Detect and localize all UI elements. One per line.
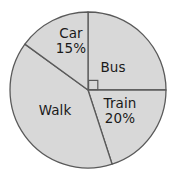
pie-chart-figure: Car 15% Bus Train 20% Walk [0,0,179,182]
pie-chart-graphic [0,0,179,182]
pie-slice-bus [88,12,166,90]
